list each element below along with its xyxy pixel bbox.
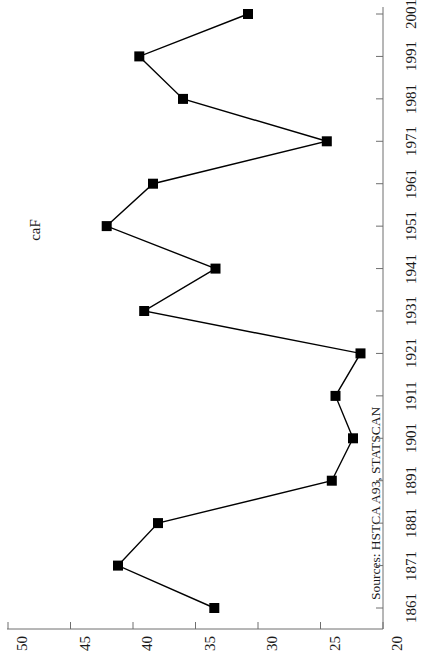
value-tick-label: 45 (78, 636, 93, 651)
year-tick-label: 1931 (404, 296, 419, 326)
chart-figure: caF Sources: HSTCA A93, STATSCAN 5045403… (0, 0, 426, 663)
year-tick-label: 1981 (404, 84, 419, 114)
value-tick-label: 40 (140, 636, 155, 651)
plot-area (0, 0, 426, 663)
value-tick-label: 30 (265, 636, 280, 651)
year-tick-label: 1951 (404, 211, 419, 241)
year-tick-label: 1881 (404, 508, 419, 538)
data-point-marker (327, 476, 337, 486)
year-tick-label: 1911 (404, 381, 419, 410)
year-tick-label: 1901 (404, 423, 419, 453)
data-point-marker (348, 433, 358, 443)
year-tick-label: 1991 (404, 41, 419, 71)
value-tick-label: 35 (203, 636, 218, 651)
value-axis-ticks (8, 622, 383, 629)
year-tick-label: 1971 (404, 126, 419, 156)
year-tick-label: 1921 (404, 338, 419, 368)
data-point-marker (331, 391, 341, 401)
value-tick-label: 50 (15, 636, 30, 651)
data-point-marker (113, 561, 123, 571)
year-tick-label: 2001 (404, 0, 419, 29)
data-point-marker (243, 9, 253, 19)
year-tick-label: 1871 (404, 551, 419, 581)
year-tick-label: 1861 (404, 593, 419, 623)
year-tick-label: 1961 (404, 169, 419, 199)
data-point-marker (153, 518, 163, 528)
data-point-marker (102, 221, 112, 231)
year-axis-ticks (376, 14, 383, 608)
value-tick-label: 20 (390, 636, 405, 651)
data-point-marker (139, 306, 149, 316)
year-tick-label: 1891 (404, 466, 419, 496)
data-point-marker (322, 136, 332, 146)
data-point-marker (148, 179, 158, 189)
data-point-marker (356, 348, 366, 358)
data-point-marker (134, 51, 144, 61)
series-markers (102, 9, 366, 613)
year-tick-label: 1941 (404, 254, 419, 284)
data-point-marker (209, 603, 219, 613)
data-point-marker (211, 264, 221, 274)
value-tick-label: 25 (328, 636, 343, 651)
data-point-marker (178, 94, 188, 104)
